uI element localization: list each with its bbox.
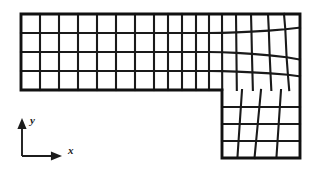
x-axis-arrowhead [51, 151, 62, 160]
mesh-diagram: y x [0, 0, 320, 172]
y-axis-label: y [28, 114, 35, 126]
domain-boundary [21, 14, 300, 158]
mesh-interior-lines [21, 14, 300, 158]
x-axis-label: x [67, 144, 74, 156]
coordinate-axes-indicator: y x [17, 114, 74, 161]
y-axis-arrowhead [17, 118, 26, 129]
mesh-domain-outline [21, 14, 300, 158]
mesh-col-line [251, 14, 253, 90]
mesh-col-line [268, 14, 271, 90]
mesh-row-line [21, 52, 300, 60]
mesh-row-line [21, 71, 300, 76]
figure-root: y x [0, 0, 320, 172]
mesh-col-line [284, 14, 289, 90]
mesh-col-line [236, 14, 237, 90]
mesh-row-line [21, 28, 300, 33]
